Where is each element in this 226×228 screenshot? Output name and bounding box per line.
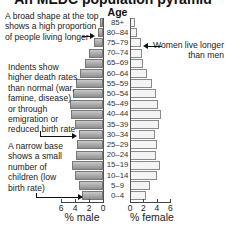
annotation-line: than normal (war, (8, 83, 77, 93)
annotation-line: or through (8, 104, 77, 114)
female-bar (130, 59, 143, 68)
annotation-line: number of (8, 162, 63, 172)
arrow-line (40, 136, 72, 137)
x-tick (170, 199, 171, 202)
annotation-line: Indents show (8, 62, 77, 72)
x-tick (103, 199, 104, 202)
age-label: 5–9 (104, 181, 131, 191)
female-bar (130, 161, 160, 170)
age-label: 40–44 (104, 109, 131, 119)
female-axis-title: % female (124, 211, 180, 223)
annotation-line: A narrow base (8, 141, 63, 151)
male-axis-vline (103, 18, 104, 202)
age-label: 15–19 (104, 160, 131, 170)
age-label: 10–14 (104, 171, 131, 181)
age-label: 0–4 (104, 191, 131, 201)
annotation-line: famine, disease) (8, 93, 77, 103)
female-bar (130, 140, 157, 149)
age-label: 50–54 (104, 89, 131, 99)
annotation-line: reduced birth rate (8, 124, 77, 134)
arrow-right-icon (78, 194, 83, 200)
annotation-broad-top: A broad shape at the top shows a high pr… (5, 11, 99, 42)
female-bar (130, 28, 137, 37)
male-axis-title: % male (56, 211, 108, 223)
x-tick (89, 199, 90, 202)
age-label: 35–39 (104, 120, 131, 130)
annotation-women-longer: Women live longer than men (152, 40, 224, 61)
female-axis-vline (130, 18, 131, 202)
age-label: 70–74 (104, 48, 131, 58)
age-label: 55–59 (104, 79, 131, 89)
arrow-right-icon (72, 133, 77, 139)
age-label: 65–69 (104, 58, 131, 68)
x-tick (157, 199, 158, 202)
female-bar (130, 120, 159, 129)
age-label: 60–64 (104, 69, 131, 79)
male-bar (73, 89, 103, 98)
annotation-line: shows a high proportion (5, 21, 99, 31)
annotation-line: children (low (8, 172, 63, 182)
female-bar (130, 38, 141, 47)
male-bar (77, 140, 103, 149)
age-label: 45–49 (104, 99, 131, 109)
male-bar (82, 191, 103, 200)
male-bar (85, 59, 103, 68)
female-bar (130, 110, 161, 119)
age-label: 85+ (104, 18, 131, 28)
male-bar (79, 181, 103, 190)
x-tick (61, 199, 62, 202)
arrow-right-icon (90, 33, 95, 39)
male-bar (80, 69, 103, 78)
x-tick (75, 199, 76, 202)
age-label: 25–29 (104, 140, 131, 150)
annotation-line: shows a small (8, 151, 63, 161)
male-bar (89, 49, 103, 58)
annotation-line: of people living longer (5, 32, 99, 42)
x-tick (143, 199, 144, 202)
male-bar (79, 130, 103, 139)
arrow-line (147, 46, 162, 47)
arrow-line (36, 197, 78, 198)
female-bar (130, 130, 155, 139)
female-bar (130, 79, 152, 88)
female-bar (130, 69, 147, 78)
female-bar (130, 181, 150, 190)
male-bar (76, 151, 103, 160)
female-bar (130, 89, 156, 98)
annotation-indents: Indents show higher death rates than nor… (8, 62, 77, 135)
male-bar (75, 171, 103, 180)
age-label: 20–24 (104, 150, 131, 160)
annotation-narrow-base: A narrow base shows a small number of ch… (8, 141, 63, 193)
annotation-line: Women live longer (152, 40, 224, 50)
annotation-line: than men (152, 50, 224, 60)
annotation-line: higher death rates (8, 72, 77, 82)
female-bar (130, 49, 142, 58)
age-label: 30–34 (104, 130, 131, 140)
annotation-line: A broad shape at the top (5, 11, 99, 21)
male-bar (76, 79, 103, 88)
female-bar (130, 100, 158, 109)
annotation-line: emigration or (8, 114, 77, 124)
female-bar (130, 151, 156, 160)
age-label: 75–79 (104, 38, 131, 48)
age-label: 80–84 (104, 28, 131, 38)
female-bar (130, 171, 157, 180)
male-bar (75, 120, 103, 129)
annotation-line: birth rate) (8, 183, 63, 193)
male-bar (72, 161, 103, 170)
x-tick (130, 199, 131, 202)
